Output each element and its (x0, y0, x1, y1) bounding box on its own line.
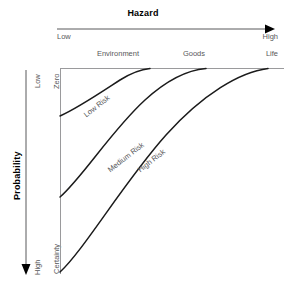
curve-medium-risk (60, 69, 206, 198)
risk-matrix-diagram: Hazard Low High Environment Goods Life P… (0, 0, 284, 289)
